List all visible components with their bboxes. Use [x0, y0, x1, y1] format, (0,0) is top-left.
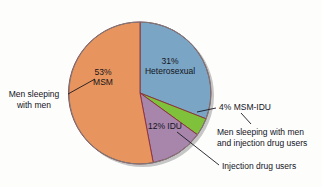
slice-label-idu: 12% IDU	[137, 121, 193, 131]
msm-percent: 53%	[78, 67, 128, 77]
callout-msm-line2: with men	[2, 100, 66, 111]
slice-label-heterosexual: 31% Heterosexual	[139, 56, 201, 76]
callout-msm-line1: Men sleeping	[2, 89, 66, 100]
pie-chart	[68, 21, 214, 167]
callout-idu: Injection drug users	[222, 161, 322, 172]
heterosexual-percent: 31%	[139, 56, 201, 66]
heterosexual-name: Heterosexual	[139, 66, 201, 76]
leader-line-msm-idu-expansion	[241, 113, 251, 124]
callout-msm: Men sleeping with men	[2, 89, 66, 110]
figure-title-cropped	[0, 0, 322, 5]
slice-label-msm: 53% MSM	[78, 67, 128, 87]
callout-msm-idu-expansion: Men sleeping with men and injection drug…	[217, 127, 322, 148]
pie-chart-figure: 31% Heterosexual 53% MSM 12% IDU Men sle…	[0, 0, 322, 187]
callout-msm-idu-line1: Men sleeping with men	[217, 127, 322, 138]
callout-msm-idu-percent: 4% MSM-IDU	[219, 102, 319, 113]
msm-abbrev: MSM	[78, 77, 128, 87]
pie-slices	[68, 21, 214, 167]
callout-msm-idu-line2: and injection drug users	[217, 138, 322, 149]
